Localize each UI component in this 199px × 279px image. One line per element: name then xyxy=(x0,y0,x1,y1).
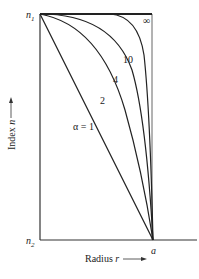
label-alpha-2: 2 xyxy=(100,96,105,106)
label-alpha-1: α = 1 xyxy=(73,122,94,132)
tick-n2: n2 xyxy=(26,236,35,250)
curve-alpha-1 xyxy=(40,14,153,240)
x-axis-label: Radius r xyxy=(85,254,119,264)
label-alpha-10: 10 xyxy=(123,55,133,65)
tick-a: a xyxy=(151,246,156,256)
tick-n1: n1 xyxy=(26,10,35,24)
label-alpha-4: 4 xyxy=(113,75,118,85)
arrow-up-icon xyxy=(9,97,13,103)
y-axis-label: Index n xyxy=(6,120,17,150)
arrow-right-icon xyxy=(141,257,147,261)
label-alpha-inf: ∞ xyxy=(143,16,150,26)
